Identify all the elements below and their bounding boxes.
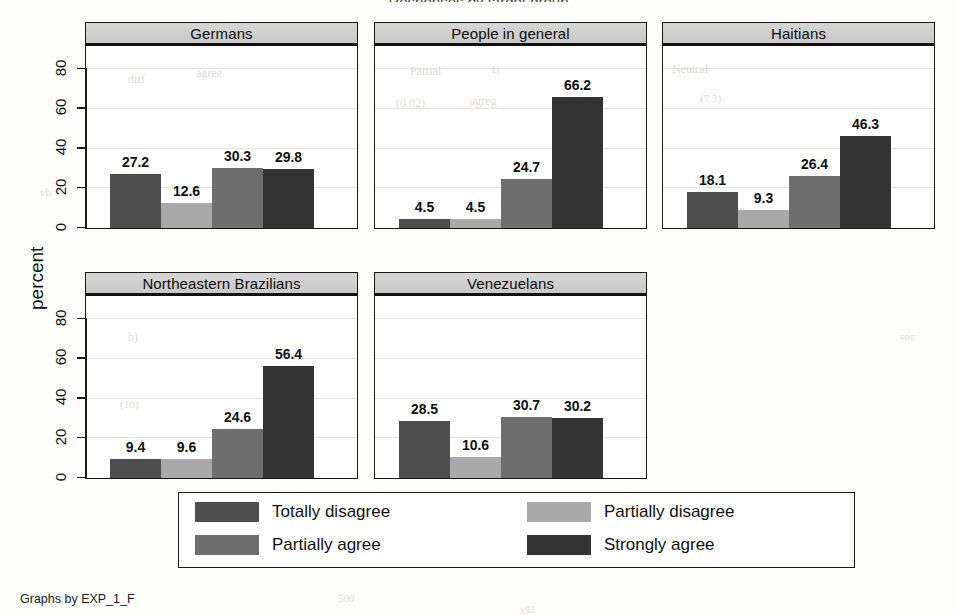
gridline	[375, 108, 646, 109]
bar	[161, 203, 212, 228]
bar-value-label: 9.6	[155, 439, 218, 455]
bar	[687, 192, 738, 228]
panel-plot-area: 28.510.630.730.2	[374, 294, 647, 479]
bar	[399, 421, 450, 478]
y-axis-tick	[77, 318, 85, 320]
gridline	[86, 108, 357, 109]
gridline	[375, 318, 646, 319]
bar-value-label: 9.3	[732, 190, 795, 206]
bar-value-label: 30.2	[546, 398, 609, 414]
y-axis-tick	[77, 107, 85, 109]
y-axis-tick-label: 0	[52, 207, 70, 247]
bar	[110, 174, 161, 228]
y-axis-tick-label: 60	[52, 87, 70, 127]
bar-value-label: 18.1	[681, 172, 744, 188]
bar-value-label: 56.4	[257, 346, 320, 362]
bar-value-label: 66.2	[546, 77, 609, 93]
gridline	[375, 358, 646, 359]
panel-germans: Germans27.212.630.329.8	[85, 22, 358, 229]
legend-label: Strongly agree	[604, 535, 715, 555]
y-axis-tick-label: 80	[52, 48, 70, 88]
bar	[450, 457, 501, 478]
bar	[161, 459, 212, 478]
bar	[789, 176, 840, 228]
y-axis: 020406080	[73, 294, 87, 479]
panel-northeastern-brazilians: Northeastern Brazilians9.49.624.656.4	[85, 272, 358, 479]
legend-label: Partially agree	[272, 535, 381, 555]
bar	[263, 169, 314, 228]
legend-label: Totally disagree	[272, 502, 390, 522]
y-axis-tick-label: 60	[52, 337, 70, 377]
panel-title: Venezuelans	[374, 272, 647, 294]
bar	[263, 366, 314, 478]
gridline	[663, 108, 934, 109]
figure-suptitle: Responses by target group	[0, 0, 957, 2]
bar	[450, 219, 501, 228]
legend-swatch	[195, 502, 259, 522]
y-axis: 020406080	[73, 44, 87, 229]
panel-title: Haitians	[662, 22, 935, 44]
bar	[212, 429, 263, 478]
bleedthrough-text: 500	[338, 592, 355, 604]
y-axis-tick	[77, 437, 85, 439]
y-axis-tick	[77, 357, 85, 359]
bar-value-label: 24.6	[206, 409, 269, 425]
panel-title: Germans	[85, 22, 358, 44]
bar	[552, 97, 603, 228]
legend: Totally disagreePartially disagreePartia…	[178, 492, 855, 568]
legend-item[interactable]: Partially disagree	[527, 502, 734, 522]
y-axis-tick-label: 20	[52, 417, 70, 457]
panel-venezuelans: Venezuelans28.510.630.730.2	[374, 272, 647, 479]
bar	[552, 418, 603, 478]
y-axis-tick	[77, 477, 85, 479]
legend-label: Partially disagree	[604, 502, 734, 522]
panel-people-in-general: People in general4.54.524.766.2	[374, 22, 647, 229]
gridline	[663, 68, 934, 69]
y-axis-tick	[77, 227, 85, 229]
bar	[110, 459, 161, 478]
y-axis-tick	[77, 187, 85, 189]
legend-item[interactable]: Totally disagree	[195, 502, 390, 522]
legend-swatch	[527, 502, 591, 522]
bar-value-label: 10.6	[444, 437, 507, 453]
gridline	[375, 68, 646, 69]
y-axis-tick-label: 40	[52, 127, 70, 167]
bleedthrough-text: vb	[40, 186, 51, 198]
bar-value-label: 26.4	[783, 156, 846, 172]
bar-value-label: 24.7	[495, 159, 558, 175]
y-axis-line	[85, 318, 87, 480]
gridline	[663, 148, 934, 149]
gridline	[86, 318, 357, 319]
legend-swatch	[527, 535, 591, 555]
panel-plot-area: 9.49.624.656.4	[85, 294, 358, 479]
bar	[501, 417, 552, 478]
gridline	[375, 148, 646, 149]
y-axis-tick-label: 80	[52, 298, 70, 338]
y-axis-tick-label: 40	[52, 377, 70, 417]
bar	[399, 219, 450, 228]
bar	[840, 136, 891, 228]
figure-footnote: Graphs by EXP_1_F	[20, 592, 135, 606]
bleedthrough-text: soc	[900, 330, 915, 342]
y-axis-title: percent	[26, 247, 48, 310]
bar-value-label: 46.3	[834, 116, 897, 132]
bleedthrough-text: g82	[520, 604, 535, 615]
panel-haitians: Haitians18.19.326.446.3	[662, 22, 935, 229]
panel-title: People in general	[374, 22, 647, 44]
bar-value-label: 12.6	[155, 183, 218, 199]
y-axis-tick	[77, 147, 85, 149]
y-axis-line	[85, 68, 87, 230]
legend-item[interactable]: Strongly agree	[527, 535, 715, 555]
y-axis-tick	[77, 68, 85, 70]
bar-value-label: 4.5	[444, 199, 507, 215]
legend-swatch	[195, 535, 259, 555]
bar-value-label: 27.2	[104, 154, 167, 170]
bar	[738, 210, 789, 228]
bar	[212, 168, 263, 228]
gridline	[86, 68, 357, 69]
y-axis-tick-label: 20	[52, 167, 70, 207]
bar-value-label: 29.8	[257, 149, 320, 165]
y-axis-tick	[77, 397, 85, 399]
legend-item[interactable]: Partially agree	[195, 535, 381, 555]
